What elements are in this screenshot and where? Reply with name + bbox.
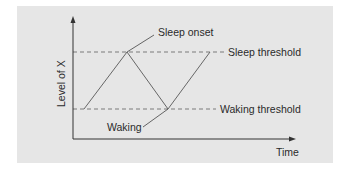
x-axis-label: Time (276, 147, 299, 158)
sleep-threshold-label: Sleep threshold (228, 47, 301, 58)
level-trace (84, 52, 210, 109)
y-axis-label: Level of X (56, 60, 67, 107)
sleep-onset-label: Sleep onset (158, 27, 213, 38)
waking-leader (143, 109, 168, 127)
waking-label: Waking (107, 122, 142, 133)
sleep-onset-leader (127, 35, 154, 52)
x-axis-arrow-icon (289, 137, 296, 142)
y-axis-arrow-icon (71, 16, 76, 23)
waking-threshold-label: Waking threshold (220, 104, 301, 115)
